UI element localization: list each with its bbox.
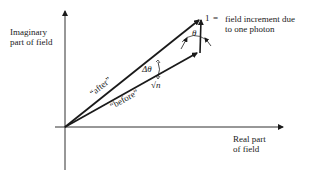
imaginary-axis-label-line1: Imaginary — [10, 27, 52, 37]
after-vector — [65, 20, 199, 127]
real-axis-label: Real part of field — [233, 134, 266, 154]
imaginary-axis-label: Imaginary part of field — [10, 27, 52, 47]
increment-description-line2: to one photon — [225, 24, 295, 34]
real-axis-label-line2: of field — [233, 144, 266, 154]
real-axis-label-line1: Real part — [233, 134, 266, 144]
delta-theta-label: Δθ — [142, 64, 152, 74]
increment-equals: = — [213, 13, 218, 23]
increment-description: field increment due to one photon — [225, 14, 295, 34]
imaginary-axis-label-line2: part of field — [10, 37, 52, 47]
increment-description-line1: field increment due — [225, 14, 295, 24]
theta-label: θ — [192, 28, 196, 38]
before-magnitude-label: √n — [151, 80, 160, 90]
increment-symbol: 1 — [205, 13, 210, 23]
